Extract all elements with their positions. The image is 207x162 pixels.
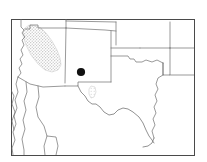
point-locality-group — [77, 68, 85, 76]
distribution-map-figure — [0, 0, 207, 162]
point-locality-marker — [77, 68, 85, 76]
map-canvas — [0, 0, 207, 162]
